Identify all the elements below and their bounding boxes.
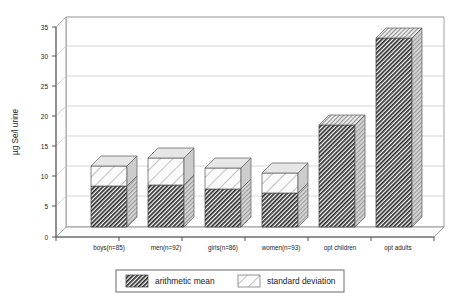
x-tick-label: opt children [324,244,357,252]
legend-label-standard-deviation: standard deviation [267,276,336,286]
y-tick-label: 10 [41,173,49,180]
x-tick-label: opt adults [384,244,411,252]
bar-segment-mean [319,125,355,227]
bar-segment-sd [148,158,184,185]
bar-segment-mean [262,193,298,227]
bar-group-girls[interactable] [205,158,251,227]
bar-side-mean [412,28,422,227]
bar-side-mean [355,115,365,227]
x-tick-labels: boys(n=85) men(n=92) girls(n=86) women(n… [93,244,412,252]
bar-group-opt-adults[interactable] [376,28,422,227]
y-axis [52,27,56,237]
chart-container: 0 5 10 15 20 25 30 35 µg Se/l urine [0,0,455,307]
x-axis [56,237,434,241]
bar-segment-sd [205,168,241,189]
bar-segment-sd [262,173,298,193]
plot-floor [56,227,444,237]
plot-left-wall [56,17,66,237]
y-tick-label: 5 [44,203,48,210]
y-tick-label: 30 [41,53,49,60]
bar-segment-sd [91,166,127,186]
y-tick-label: 15 [41,143,49,150]
y-tick-labels: 0 5 10 15 20 25 30 35 [41,24,49,241]
y-tick-label: 0 [44,234,48,241]
legend-label-arithmetic-mean: arithmetic mean [155,276,215,286]
bar-segment-mean [205,189,241,227]
x-tick-label: men(n=92) [151,244,182,252]
bar-group-men[interactable] [148,148,194,227]
y-tick-label: 20 [41,113,49,120]
bar-group-opt-children[interactable] [319,115,365,227]
y-tick-label: 35 [41,24,49,31]
x-tick-label: girls(n=86) [208,244,238,252]
legend-swatch-standard-deviation [238,275,260,287]
bar-group-women[interactable] [262,163,308,227]
bar-segment-mean [91,186,127,227]
bar-segment-mean [148,185,184,227]
x-tick-label: women(n=93) [261,244,301,252]
bar-chart-svg: 0 5 10 15 20 25 30 35 µg Se/l urine [0,0,455,307]
chart-legend: arithmetic mean standard deviation [116,270,344,292]
bar-group-boys[interactable] [91,156,137,227]
legend-swatch-arithmetic-mean [126,275,148,287]
y-axis-title: µg Se/l urine [11,108,20,155]
x-tick-label: boys(n=85) [93,244,125,252]
y-tick-label: 25 [41,83,49,90]
bar-segment-mean [376,38,412,227]
